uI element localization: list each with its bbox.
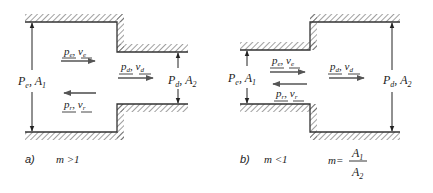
inlet-section-label: Pe, A1 [17,74,46,90]
pipe-area-change-diagram: Pe, A1 Pd, A2 pe, ve pd, vd pr, vr a) m … [0,0,433,193]
panel-b-condition: m <1 [264,153,288,165]
transmitted-wave-label: pd, vd [120,60,144,74]
pipe-wall-hatching [240,14,400,140]
inlet-section-label: Pe, A1 [227,71,256,87]
incident-wave-label: pe, ve [271,54,294,68]
panel-b: Pe, A1 Pd, A2 pe, ve pr, vr pd, vd b) m … [227,14,411,165]
formula-lhs: m= [328,154,343,166]
reflected-wave-label: pr, vr [275,87,298,101]
outlet-section-label: Pd, A2 [382,73,411,89]
reflected-wave-label: pr, vr [63,98,86,112]
area-ratio-formula: m= A1 A2 [328,146,367,181]
outlet-section-label: Pd, A2 [167,73,196,89]
formula-denominator: A2 [351,165,363,181]
panel-a: Pe, A1 Pd, A2 pe, ve pd, vd pr, vr a) m … [17,14,196,165]
panel-b-letter: b) [240,153,250,165]
panel-a-letter: a) [25,153,35,165]
transmitted-wave-label: pd, vd [329,60,353,74]
formula-numerator: A1 [351,146,363,162]
pipe-wall-hatching [25,14,188,140]
incident-wave-label: pe, ve [63,45,86,59]
panel-a-condition: m >1 [56,153,80,165]
